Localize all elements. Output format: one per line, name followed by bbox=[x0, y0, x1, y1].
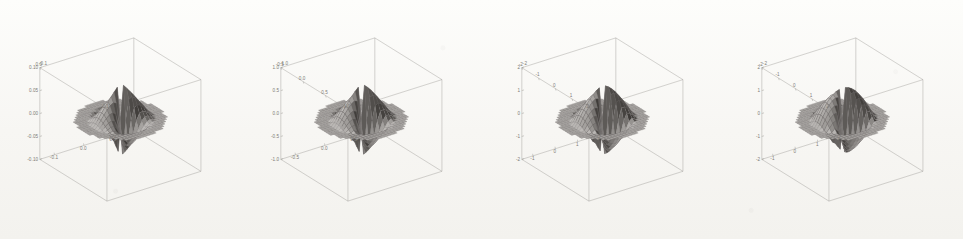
svg-text:-2: -2 bbox=[763, 61, 768, 66]
svg-text:1: 1 bbox=[816, 142, 819, 147]
surface-plot-svg: 0.100.050.00-0.05-0.10-0.10.00.1-0.10.00… bbox=[0, 0, 241, 239]
svg-text:-2: -2 bbox=[515, 157, 520, 162]
svg-text:0.5: 0.5 bbox=[321, 90, 328, 95]
surface-plot-panel-row: 0.100.050.00-0.05-0.10-0.10.00.1-0.10.00… bbox=[0, 0, 963, 239]
surface-plot-svg: 210-1-2-2-2-1012-1012 bbox=[722, 0, 963, 239]
svg-text:0.0: 0.0 bbox=[80, 146, 87, 151]
svg-text:1: 1 bbox=[575, 142, 578, 147]
svg-text:0.0: 0.0 bbox=[299, 76, 306, 81]
surface-plot-panel-3: 210-1-2-2-2-1012-1012 bbox=[482, 0, 723, 239]
svg-text:0.0: 0.0 bbox=[35, 62, 42, 67]
svg-text:0.1: 0.1 bbox=[103, 104, 110, 109]
svg-text:0: 0 bbox=[793, 83, 796, 88]
svg-text:-1: -1 bbox=[776, 72, 781, 77]
svg-text:-1: -1 bbox=[756, 134, 761, 139]
svg-text:1: 1 bbox=[517, 88, 520, 93]
svg-text:-0.5: -0.5 bbox=[271, 134, 280, 139]
surface-plot-panel-2: 1.00.50.0-0.5-1.0-1.0-0.50.00.51.0-0.50.… bbox=[241, 0, 482, 239]
svg-text:-2: -2 bbox=[518, 62, 523, 67]
svg-text:1.0: 1.0 bbox=[343, 104, 350, 109]
svg-text:0.05: 0.05 bbox=[29, 88, 39, 93]
svg-text:0.00: 0.00 bbox=[29, 111, 39, 116]
surface-plot-svg: 1.00.50.0-0.5-1.0-1.0-0.50.00.51.0-0.50.… bbox=[241, 0, 482, 239]
svg-text:2: 2 bbox=[827, 104, 830, 109]
svg-text:-1: -1 bbox=[771, 156, 776, 161]
svg-text:0.0: 0.0 bbox=[272, 111, 279, 116]
svg-text:-2: -2 bbox=[756, 157, 761, 162]
svg-text:-2: -2 bbox=[522, 61, 527, 66]
svg-text:0.5: 0.5 bbox=[350, 137, 357, 142]
surface-mesh bbox=[314, 85, 409, 154]
svg-text:0: 0 bbox=[517, 111, 520, 116]
surface-plot-svg: 210-1-2-2-2-1012-1012 bbox=[482, 0, 723, 239]
svg-text:-0.05: -0.05 bbox=[27, 134, 38, 139]
surface-plot-panel-1: 0.100.050.00-0.05-0.10-0.10.00.1-0.10.00… bbox=[0, 0, 241, 239]
svg-text:-1.0: -1.0 bbox=[271, 157, 280, 162]
svg-text:0: 0 bbox=[553, 83, 556, 88]
svg-text:1: 1 bbox=[569, 93, 572, 98]
svg-text:-0.10: -0.10 bbox=[27, 157, 38, 162]
svg-text:2: 2 bbox=[839, 135, 842, 140]
svg-text:0: 0 bbox=[553, 149, 556, 154]
svg-text:0: 0 bbox=[758, 111, 761, 116]
svg-text:0.5: 0.5 bbox=[272, 88, 279, 93]
svg-text:2: 2 bbox=[598, 135, 601, 140]
svg-text:-1: -1 bbox=[535, 72, 540, 77]
svg-text:1: 1 bbox=[758, 88, 761, 93]
svg-text:-0.5: -0.5 bbox=[275, 62, 284, 67]
svg-text:0.0: 0.0 bbox=[321, 146, 328, 151]
surface-mesh bbox=[73, 85, 168, 154]
svg-text:0.1: 0.1 bbox=[109, 137, 116, 142]
svg-text:-0.5: -0.5 bbox=[291, 155, 300, 160]
svg-text:-1: -1 bbox=[530, 156, 535, 161]
svg-text:1: 1 bbox=[810, 93, 813, 98]
svg-text:0: 0 bbox=[794, 149, 797, 154]
surface-plot-panel-4: 210-1-2-2-2-1012-1012 bbox=[722, 0, 963, 239]
svg-text:-2: -2 bbox=[759, 62, 764, 67]
svg-text:-1: -1 bbox=[515, 134, 520, 139]
svg-text:2: 2 bbox=[586, 104, 589, 109]
svg-text:-0.1: -0.1 bbox=[50, 155, 59, 160]
